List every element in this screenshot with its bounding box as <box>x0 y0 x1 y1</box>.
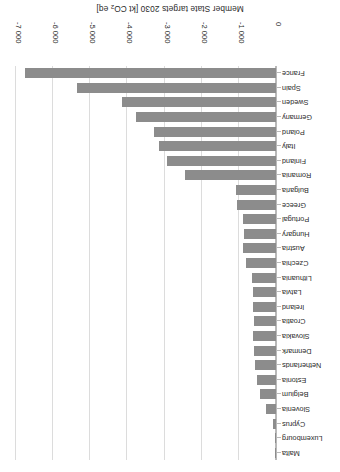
bar-row <box>16 360 276 370</box>
bar-cyprus <box>273 419 276 429</box>
bar-row <box>16 316 276 326</box>
bar-malta <box>275 448 276 458</box>
bar-italy <box>159 141 276 151</box>
category-label-spain: Spain <box>282 83 301 93</box>
category-label-estonia: Estonia <box>282 375 306 385</box>
tick-label--4000: -4 000 <box>125 22 134 44</box>
category-label-portugal: Portugal <box>282 214 309 224</box>
bar-hungary <box>244 229 276 239</box>
bar-romania <box>185 170 276 180</box>
category-label-poland: Poland <box>282 127 305 137</box>
category-axis-labels: FranceSpainSwedenGermanyPolandItalyFinla… <box>278 66 340 460</box>
category-tick-mark <box>277 393 281 394</box>
bar-row <box>16 141 276 151</box>
tick-label--2000: -2 000 <box>200 22 209 44</box>
category-label-latvia: Latvia <box>282 287 301 297</box>
bar-row <box>16 404 276 414</box>
category-tick-mark <box>277 247 281 248</box>
category-label-cyprus: Cyprus <box>282 419 305 429</box>
bar-row <box>16 243 276 253</box>
category-label-croatia: Croatia <box>282 316 306 326</box>
bar-finland <box>167 156 276 166</box>
category-label-lithuania: Lithuania <box>282 273 312 283</box>
category-label-finland: Finland <box>282 156 306 166</box>
bar-spain <box>77 83 276 93</box>
bar-estonia <box>257 375 276 385</box>
category-tick-mark <box>277 262 281 263</box>
category-tick-mark <box>277 379 281 380</box>
value-axis-tick-labels: 0-1 000-2 000-3 000-4 000-5 000-6 000-7 … <box>0 22 340 66</box>
bar-row <box>16 331 276 341</box>
category-label-france: France <box>282 68 305 78</box>
category-tick-mark <box>277 101 281 102</box>
bar-netherlands <box>255 360 276 370</box>
category-tick-mark <box>277 335 281 336</box>
category-tick-mark <box>277 160 281 161</box>
bar-row <box>16 229 276 239</box>
bar-slovenia <box>266 404 276 414</box>
plot-area <box>17 66 277 460</box>
category-tick-mark <box>277 87 281 88</box>
tick-label--1000: -1 000 <box>237 22 246 44</box>
category-tick-mark <box>277 452 281 453</box>
bar-row <box>16 273 276 283</box>
category-tick-mark <box>277 306 281 307</box>
category-label-bulgaria: Bulgaria <box>282 185 309 195</box>
x-axis-title: Member State targets 2030 [kt CO2 eq] <box>0 4 340 14</box>
bar-portugal <box>243 214 276 224</box>
category-label-netherlands: Netherlands <box>282 360 321 370</box>
bar-croatia <box>254 316 276 326</box>
category-tick-mark <box>277 189 281 190</box>
bar-row <box>16 375 276 385</box>
category-tick-mark <box>277 145 281 146</box>
bar-row <box>16 170 276 180</box>
bar-lithuania <box>252 273 276 283</box>
category-label-belgium: Belgium <box>282 389 308 399</box>
bar-denmark <box>254 346 276 356</box>
category-label-slovakia: Slovakia <box>282 331 310 341</box>
bar-greece <box>237 200 276 210</box>
category-label-romania: Romania <box>282 170 311 180</box>
bar-row <box>16 68 276 78</box>
bar-row <box>16 389 276 399</box>
category-tick-mark <box>277 291 281 292</box>
category-label-austria: Austria <box>282 243 305 253</box>
bar-czechia <box>246 258 276 268</box>
x-axis-title-text: Member State targets 2030 [kt CO2 eq] <box>96 4 243 14</box>
category-tick-mark <box>277 116 281 117</box>
bar-row <box>16 448 276 458</box>
bar-row <box>16 258 276 268</box>
category-tick-mark <box>277 233 281 234</box>
bar-france <box>25 68 276 78</box>
bar-row <box>16 127 276 137</box>
bar-luxembourg <box>275 433 276 443</box>
category-tick-mark <box>277 277 281 278</box>
category-tick-mark <box>277 218 281 219</box>
bar-row <box>16 185 276 195</box>
category-tick-mark <box>277 350 281 351</box>
category-label-czechia: Czechia <box>282 258 308 268</box>
category-label-ireland: Ireland <box>282 302 304 312</box>
bar-row <box>16 287 276 297</box>
category-tick-mark <box>277 72 281 73</box>
bar-row <box>16 112 276 122</box>
category-tick-mark <box>277 364 281 365</box>
category-tick-mark <box>277 131 281 132</box>
category-label-slovenia: Slovenia <box>282 404 310 414</box>
bar-bulgaria <box>236 185 276 195</box>
category-tick-mark <box>277 174 281 175</box>
bar-germany <box>136 112 276 122</box>
bar-row <box>16 433 276 443</box>
bar-austria <box>243 243 276 253</box>
category-label-sweden: Sweden <box>282 97 308 107</box>
bar-belgium <box>260 389 276 399</box>
tick-label--3000: -3 000 <box>163 22 172 44</box>
bar-row <box>16 156 276 166</box>
bar-row <box>16 419 276 429</box>
bar-row <box>16 346 276 356</box>
category-label-italy: Italy <box>282 141 295 151</box>
category-label-greece: Greece <box>282 200 306 210</box>
category-tick-mark <box>277 423 281 424</box>
category-tick-mark <box>277 437 281 438</box>
category-label-luxembourg: Luxembourg <box>282 433 323 443</box>
